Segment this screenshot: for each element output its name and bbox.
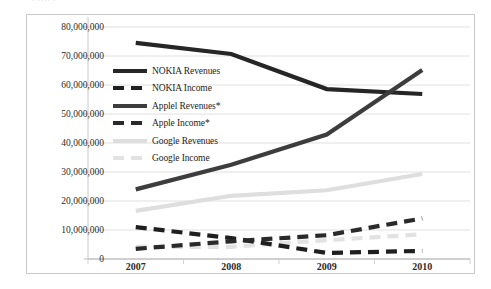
x-axis-tick-label: 2008 <box>196 261 266 272</box>
legend-item-label: NOKIA Revenues <box>152 66 220 76</box>
legend-item[interactable]: NOKIA Income <box>112 80 252 98</box>
legend-item[interactable]: Google Revenues <box>112 132 252 150</box>
y-axis-tick-label: 60,000,000 <box>28 80 104 90</box>
legend-swatch-solid-icon <box>112 65 148 77</box>
y-axis-tick-label: 20,000,000 <box>28 196 104 206</box>
legend-item-label: NOKIA Income <box>152 83 212 93</box>
legend-swatch-dashed-icon <box>112 82 148 94</box>
legend-item-label: Applel Revenues* <box>152 101 220 111</box>
legend: NOKIA RevenuesNOKIA IncomeApplel Revenue… <box>112 62 252 167</box>
legend-item-label: Google Revenues <box>152 136 218 146</box>
y-axis: 010,000,00020,000,00030,000,00040,000,00… <box>28 0 104 289</box>
legend-item[interactable]: Applel Revenues* <box>112 97 252 115</box>
legend-item-label: Apple Income* <box>152 118 210 128</box>
y-axis-tick-label: 40,000,000 <box>28 138 104 148</box>
legend-swatch-solid-icon <box>112 100 148 112</box>
x-axis-tick-label: 2007 <box>101 261 171 272</box>
legend-swatch-dashed-icon <box>112 117 148 129</box>
legend-swatch-solid-icon <box>112 135 148 147</box>
legend-item-label: Google Income <box>152 153 210 163</box>
line-chart: · ···· · 010,000,00020,000,00030,000,000… <box>0 0 491 289</box>
y-axis-tick-label: 10,000,000 <box>28 225 104 235</box>
legend-swatch-dashed-icon <box>112 152 148 164</box>
y-axis-tick-label: 70,000,000 <box>28 51 104 61</box>
legend-item[interactable]: NOKIA Revenues <box>112 62 252 80</box>
legend-item[interactable]: Google Income <box>112 150 252 168</box>
x-axis: 2007200820092010 <box>0 261 491 279</box>
x-axis-tick-label: 2009 <box>292 261 362 272</box>
x-axis-tick-label: 2010 <box>387 261 457 272</box>
y-axis-tick-label: 50,000,000 <box>28 109 104 119</box>
y-axis-tick-label: 30,000,000 <box>28 167 104 177</box>
legend-item[interactable]: Apple Income* <box>112 115 252 133</box>
y-axis-tick-label: 80,000,000 <box>28 22 104 32</box>
